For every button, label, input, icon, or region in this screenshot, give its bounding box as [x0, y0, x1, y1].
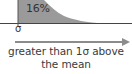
- caption: greater than 1σ above the mean: [0, 45, 132, 71]
- tail-percentage-label: 16%: [26, 2, 50, 15]
- caption-line-1: greater than 1σ above: [0, 45, 132, 58]
- sigma-tick-label: σ: [15, 24, 21, 34]
- caption-line-2: the mean: [0, 58, 132, 71]
